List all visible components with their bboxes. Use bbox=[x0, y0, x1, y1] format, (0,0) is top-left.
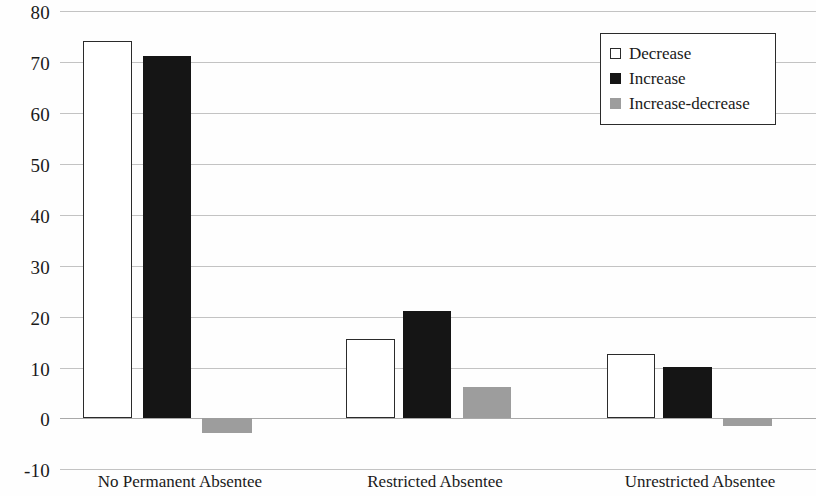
legend-swatch-increase-decrease-icon bbox=[610, 98, 621, 109]
y-tick-neg10: -10 bbox=[0, 461, 50, 480]
x-label-0: No Permanent Absentee bbox=[60, 472, 300, 492]
legend-item-increase: Increase bbox=[610, 66, 766, 91]
bar-increase-1 bbox=[403, 311, 451, 418]
legend-label-increase-decrease: Increase-decrease bbox=[629, 95, 750, 112]
bar-decrease-0 bbox=[83, 41, 132, 418]
bar-increase-decrease-1 bbox=[463, 387, 511, 418]
y-tick-10: 10 bbox=[0, 360, 50, 379]
gridline-zero bbox=[60, 418, 816, 419]
y-tick-30: 30 bbox=[0, 258, 50, 277]
y-tick-50: 50 bbox=[0, 156, 50, 175]
gridline-80 bbox=[60, 11, 816, 12]
y-tick-60: 60 bbox=[0, 105, 50, 124]
legend-swatch-decrease-icon bbox=[610, 48, 621, 59]
bar-increase-0 bbox=[143, 56, 191, 418]
bar-increase-decrease-0 bbox=[202, 418, 252, 433]
bar-decrease-2 bbox=[607, 354, 655, 418]
x-label-2: Unrestricted Absentee bbox=[590, 472, 810, 492]
legend-label-increase: Increase bbox=[629, 70, 686, 87]
y-tick-40: 40 bbox=[0, 207, 50, 226]
y-tick-80: 80 bbox=[0, 3, 50, 22]
legend-swatch-increase-icon bbox=[610, 73, 621, 84]
legend-label-decrease: Decrease bbox=[629, 45, 691, 62]
bar-increase-2 bbox=[663, 367, 712, 418]
bar-decrease-1 bbox=[346, 339, 395, 418]
bar-increase-decrease-2 bbox=[723, 418, 772, 426]
legend-item-decrease: Decrease bbox=[610, 41, 766, 66]
y-tick-0: 0 bbox=[0, 410, 50, 429]
y-tick-70: 70 bbox=[0, 54, 50, 73]
y-tick-20: 20 bbox=[0, 309, 50, 328]
legend-item-increase-decrease: Increase-decrease bbox=[610, 91, 766, 116]
chart-legend: Decrease Increase Increase-decrease bbox=[600, 33, 776, 125]
bar-chart: 80 70 60 50 40 30 20 10 0 -10 No Permane… bbox=[0, 0, 816, 496]
gridline-neg10 bbox=[60, 469, 816, 470]
x-label-1: Restricted Absentee bbox=[330, 472, 540, 492]
